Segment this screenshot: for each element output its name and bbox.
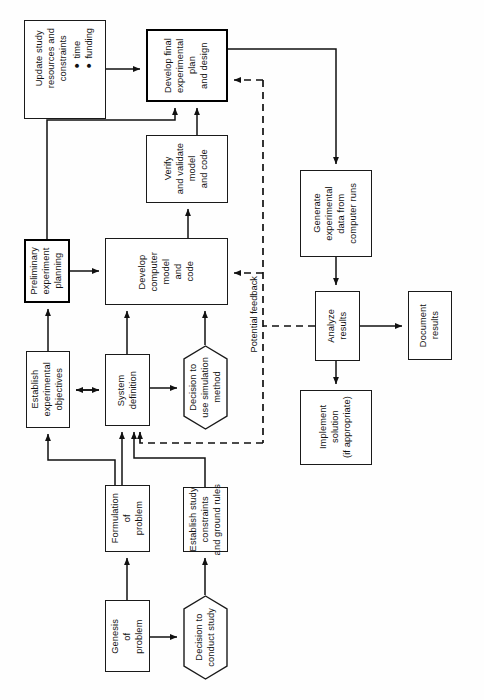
node-system-definition[interactable]: System definition	[105, 354, 150, 426]
node-genesis-of-problem-label: Genesis of problem	[110, 619, 146, 654]
edge-label-potential-feedback: Potential feedback	[249, 276, 259, 353]
node-establish-study-constraints[interactable]: Establish study constraints and ground r…	[183, 487, 228, 552]
node-analyze-results-label: Analyze results	[326, 309, 350, 343]
node-formulation-of-problem[interactable]: Formulation of problem	[105, 485, 150, 552]
node-generate-experimental-data[interactable]: Generate experimental data from computer…	[300, 170, 372, 257]
edge-constraints-to-system	[134, 432, 205, 487]
node-update-study-bullets: ● time ● funding	[72, 28, 96, 71]
node-implement-solution-label: Implement solution (if appropriate)	[318, 396, 354, 458]
edge-feedback-to-system	[140, 432, 263, 443]
node-verify-validate[interactable]: Verify and validate model and code	[146, 135, 228, 203]
node-develop-final-plan-label: Develop final experimental plan and desi…	[163, 38, 211, 93]
node-system-definition-label: System definition	[116, 371, 140, 409]
node-establish-objectives-label: Establish experimental objectives	[30, 362, 66, 416]
edge-final-to-generate	[228, 49, 336, 164]
node-establish-objectives[interactable]: Establish experimental objectives	[26, 351, 70, 428]
node-develop-final-plan[interactable]: Develop final experimental plan and desi…	[146, 29, 228, 102]
node-verify-validate-label: Verify and validate model and code	[163, 143, 211, 194]
node-preliminary-planning[interactable]: Preliminary experiment planning	[24, 239, 70, 303]
node-generate-experimental-data-label: Generate experimental data from computer…	[312, 183, 360, 244]
node-update-study-label: Update study resources and constraints	[34, 28, 70, 88]
node-implement-solution[interactable]: Implement solution (if appropriate)	[300, 390, 372, 465]
node-decision-conduct-study-label: Decision to conduct study	[194, 608, 218, 667]
node-decision-use-simulation-label: Decision to use simulation method	[188, 357, 224, 418]
node-decision-use-simulation[interactable]: Decision to use simulation method	[183, 345, 228, 430]
node-develop-computer-model-label: Develop computer model and code	[137, 252, 196, 292]
node-genesis-of-problem[interactable]: Genesis of problem	[105, 600, 150, 672]
node-document-results[interactable]: Document results	[408, 291, 452, 360]
node-update-study[interactable]: Update study resources and constraints ●…	[24, 20, 106, 119]
node-analyze-results[interactable]: Analyze results	[315, 291, 360, 361]
node-decision-conduct-study[interactable]: Decision to conduct study	[183, 595, 228, 680]
node-document-results-label: Document results	[418, 304, 442, 347]
node-formulation-of-problem-label: Formulation of problem	[110, 493, 146, 543]
node-develop-computer-model[interactable]: Develop computer model and code	[105, 238, 228, 305]
flowchart-canvas: Update study resources and constraints ●…	[0, 0, 484, 700]
node-establish-study-constraints-label: Establish study constraints and ground r…	[188, 484, 224, 555]
edge-formulation-to-objectives	[48, 434, 115, 485]
node-preliminary-planning-label: Preliminary experiment planning	[29, 247, 65, 295]
